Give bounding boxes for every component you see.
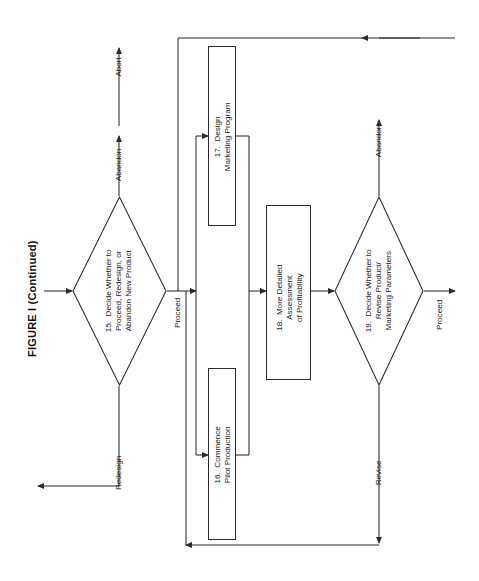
edge-label-proceed-15: Proceed: [173, 284, 183, 342]
edge-label-abandon-19: Abandon: [374, 109, 384, 173]
edge-label-proceed-19: Proceed: [435, 286, 445, 344]
edge-label-redesign: Redesign: [114, 444, 124, 502]
figure-canvas: FIGURE I (Continued) 15. Decide Whether …: [0, 0, 479, 581]
figure-title: FIGURE I (Continued): [26, 219, 39, 379]
decision-node-19: 19. Decide Whether to Revise Product/ Ma…: [334, 196, 424, 386]
edge-label-abandon-15: Abandon: [114, 133, 124, 197]
process-node-16-label: 16. Commence Pilot Production: [213, 383, 233, 527]
process-node-16: 16. Commence Pilot Production: [208, 368, 236, 540]
process-node-18-label: 18. More Detailed Assessment of Profitab…: [275, 224, 305, 371]
edge-label-abort: Abort: [114, 45, 124, 89]
process-node-17-label: 17. Design Marketing Program: [213, 61, 233, 213]
edge-label-revise: Revise: [374, 449, 384, 497]
process-node-18: 18. More Detailed Assessment of Profitab…: [266, 205, 311, 380]
decision-node-15: 15. Decide Whether to Proceed, Redesign,…: [72, 196, 167, 386]
decision-node-15-label: 15. Decide Whether to Proceed, Redesign,…: [104, 211, 134, 371]
process-node-17: 17. Design Marketing Program: [208, 46, 236, 226]
decision-node-19-label: 19. Decide Whether to Revise Product/ Ma…: [364, 213, 394, 369]
